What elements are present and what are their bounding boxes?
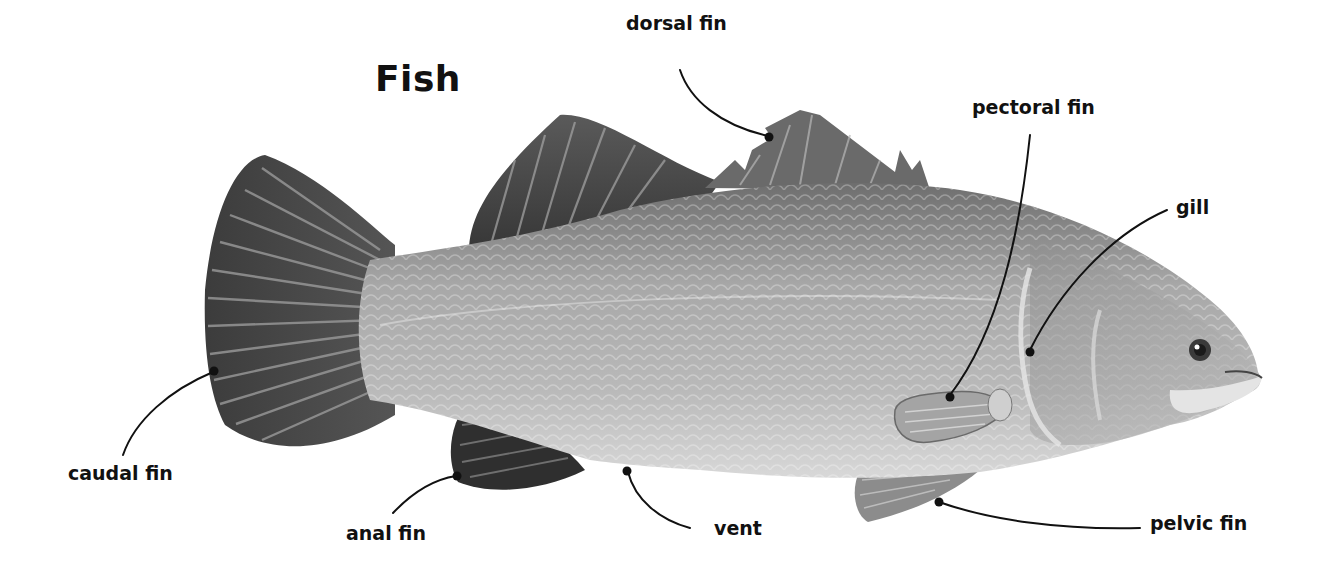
- leader-anal-fin: [393, 476, 456, 513]
- label-dorsal-fin: dorsal fin: [626, 12, 727, 34]
- label-vent: vent: [714, 517, 762, 539]
- label-caudal-fin: caudal fin: [68, 462, 173, 484]
- leader-pelvic-fin: [939, 502, 1140, 528]
- leader-caudal-fin: [123, 372, 213, 455]
- fish-illustration: [0, 0, 1326, 581]
- fish-diagram: Fish dorsal fin pectoral fin gill caudal…: [0, 0, 1326, 581]
- label-pectoral-fin: pectoral fin: [972, 96, 1095, 118]
- leader-vent: [628, 472, 690, 528]
- spiny-dorsal-fin-shape: [705, 110, 930, 190]
- label-gill: gill: [1176, 196, 1209, 218]
- label-anal-fin: anal fin: [346, 522, 426, 544]
- label-pelvic-fin: pelvic fin: [1150, 512, 1247, 534]
- diagram-title: Fish: [375, 58, 461, 99]
- pelvic-fin-shape: [855, 470, 980, 522]
- leader-dorsal-fin: [680, 70, 768, 136]
